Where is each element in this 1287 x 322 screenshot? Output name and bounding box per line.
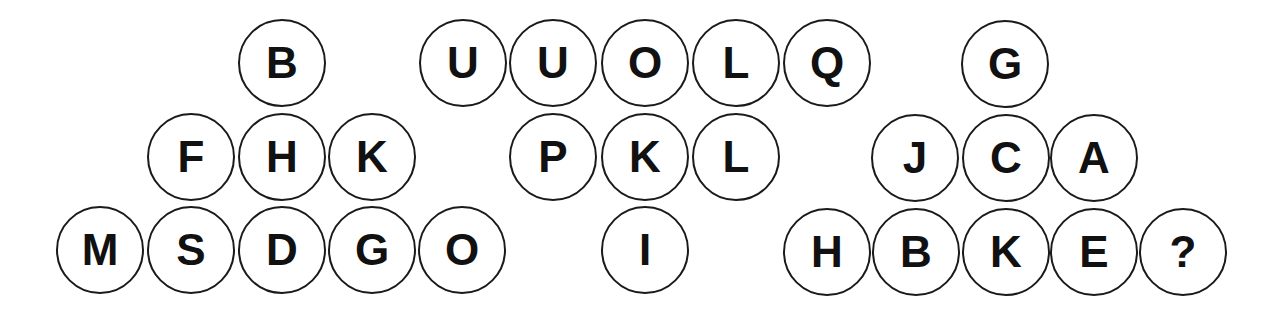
letter-circle: K (601, 113, 689, 201)
letter-circle: H (238, 113, 326, 201)
letter-circle: B (238, 19, 326, 107)
letter: B (900, 230, 932, 274)
letter: L (723, 135, 750, 179)
letter-circle: D (238, 206, 326, 294)
letter: K (990, 230, 1022, 274)
letter: U (447, 41, 479, 85)
letter: U (537, 41, 569, 85)
letter: S (176, 228, 205, 272)
letter-circle: F (147, 113, 235, 201)
letter: J (903, 136, 927, 180)
letter: A (1078, 136, 1110, 180)
letter-circle: H (783, 208, 871, 296)
letter: O (628, 41, 662, 85)
letter: E (1079, 230, 1108, 274)
letter-circle: L (692, 113, 780, 201)
letter-circle: K (962, 208, 1050, 296)
letter-circle: E (1050, 208, 1138, 296)
letter-circle: K (328, 113, 416, 201)
letter: C (990, 136, 1022, 180)
missing-letter-circle[interactable]: ? (1139, 208, 1227, 296)
letter-circle: U (509, 19, 597, 107)
letter-circle: M (56, 206, 144, 294)
letter-circle: S (147, 206, 235, 294)
letter: O (445, 228, 479, 272)
letter: K (629, 135, 661, 179)
letter-circle: P (509, 113, 597, 201)
letter-circle: B (872, 208, 960, 296)
letter: G (988, 42, 1022, 86)
letter: F (178, 135, 205, 179)
letter-circle: J (871, 114, 959, 202)
letter-circle: Q (783, 19, 871, 107)
letter: K (356, 135, 388, 179)
question-mark: ? (1170, 230, 1197, 274)
letter-circle: L (692, 19, 780, 107)
letter: Q (810, 41, 844, 85)
letter-circle: O (418, 206, 506, 294)
letter: P (538, 135, 567, 179)
letter: I (639, 228, 651, 272)
letter: H (266, 135, 298, 179)
letter: L (723, 41, 750, 85)
letter-circle: U (419, 19, 507, 107)
letter-circle: I (601, 206, 689, 294)
letter-circle: G (328, 206, 416, 294)
letter: H (811, 230, 843, 274)
letter: G (355, 228, 389, 272)
letter-circle: C (962, 114, 1050, 202)
letter-circle: A (1050, 114, 1138, 202)
letter: D (266, 228, 298, 272)
puzzle-board: BFHKMSDGOUUOLQPKLIGJCAHBKE? (0, 0, 1287, 322)
letter-circle: G (961, 20, 1049, 108)
letter: M (82, 228, 119, 272)
letter: B (266, 41, 298, 85)
letter-circle: O (601, 19, 689, 107)
